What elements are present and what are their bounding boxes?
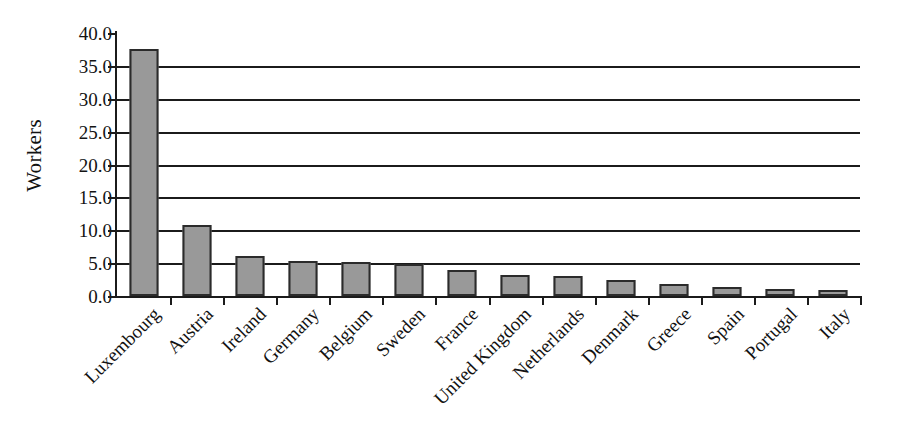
y-axis-tick-label: 30.0 — [54, 89, 112, 108]
bar-slot — [329, 33, 382, 296]
x-axis-category-label: Austria — [163, 304, 217, 358]
x-axis-category-label: Italy — [815, 304, 854, 343]
y-axis-tick-mark — [108, 66, 117, 68]
bar-slot — [276, 33, 329, 296]
y-axis-tick-label: 25.0 — [54, 122, 112, 141]
bar-chart-figure: Workers 40.035.030.025.020.015.010.05.00… — [0, 0, 904, 434]
bar[interactable] — [394, 264, 423, 296]
bar-slot — [382, 33, 435, 296]
bar[interactable] — [607, 280, 636, 296]
bar-slot — [754, 33, 807, 296]
x-axis-category-label: Portugal — [741, 304, 801, 364]
x-axis-category-label: Spain — [703, 304, 748, 349]
plot-area — [117, 33, 860, 296]
y-axis-title: Workers — [14, 60, 54, 250]
y-axis-tick-label: 15.0 — [54, 188, 112, 207]
y-axis-tick-mark — [108, 197, 117, 199]
bar[interactable] — [235, 256, 264, 296]
bar-slot — [170, 33, 223, 296]
bar[interactable] — [501, 275, 530, 296]
x-axis-category-labels: LuxembourgAustriaIrelandGermanyBelgiumSw… — [117, 300, 860, 430]
bar-slot — [648, 33, 701, 296]
bar-slot — [435, 33, 488, 296]
bar-slot — [595, 33, 648, 296]
y-axis-tick-mark — [108, 263, 117, 265]
y-axis-tick-mark — [108, 230, 117, 232]
bar-slot — [489, 33, 542, 296]
y-axis-tick-mark — [108, 165, 117, 167]
x-axis-category-label: Germany — [259, 304, 323, 368]
y-axis-tick-label: 0.0 — [54, 287, 112, 306]
bar[interactable] — [341, 262, 370, 296]
bar[interactable] — [554, 276, 583, 296]
bar[interactable] — [182, 225, 211, 296]
bar-slot — [117, 33, 170, 296]
y-axis-tick-label: 5.0 — [54, 254, 112, 273]
x-axis-category-label: Sweden — [373, 304, 430, 361]
bars-layer — [117, 33, 860, 296]
bar-slot — [807, 33, 860, 296]
y-axis-title-text: Workers — [22, 119, 47, 192]
x-axis-category-label: Greece — [643, 304, 695, 356]
bar[interactable] — [129, 49, 158, 296]
bar-slot — [223, 33, 276, 296]
x-axis-category-label: Belgium — [316, 304, 376, 364]
y-axis-tick-label: 40.0 — [54, 24, 112, 43]
bar-slot — [542, 33, 595, 296]
bar[interactable] — [713, 287, 742, 296]
y-axis-tick-label: 35.0 — [54, 56, 112, 75]
x-axis-tick-mark — [860, 296, 862, 305]
bar[interactable] — [288, 261, 317, 296]
y-axis-tick-mark — [108, 99, 117, 101]
y-axis-tick-label: 10.0 — [54, 221, 112, 240]
y-axis-tick-mark — [108, 33, 117, 35]
bar[interactable] — [660, 284, 689, 296]
x-axis-category-label: Denmark — [578, 304, 642, 368]
y-axis-tick-mark — [108, 296, 117, 298]
bar[interactable] — [447, 270, 476, 296]
bar-slot — [701, 33, 754, 296]
y-axis-tick-mark — [108, 132, 117, 134]
y-axis-tick-label: 20.0 — [54, 155, 112, 174]
